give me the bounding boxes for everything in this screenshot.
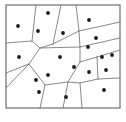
voronoi-seed-point: [16, 24, 20, 28]
voronoi-seed-point: [72, 65, 76, 69]
voronoi-seed-point: [46, 11, 50, 15]
voronoi-seed-point: [58, 55, 62, 59]
voronoi-seed-point: [94, 36, 98, 40]
voronoi-seed-point: [87, 70, 91, 74]
voronoi-seed-point: [87, 18, 91, 22]
voronoi-seed-point: [104, 68, 108, 72]
voronoi-seed-point: [102, 88, 106, 92]
voronoi-seed-point: [64, 95, 68, 99]
voronoi-seed-point: [34, 78, 38, 82]
voronoi-seed-point: [37, 90, 41, 94]
voronoi-seed-point: [110, 53, 114, 57]
figure-caption: [0, 112, 126, 122]
voronoi-figure: [0, 0, 126, 122]
voronoi-seed-point: [86, 45, 90, 49]
voronoi-seed-point: [100, 55, 104, 59]
voronoi-seed-point: [61, 31, 65, 35]
voronoi-seed-point: [17, 55, 21, 59]
figure-background: [0, 0, 126, 122]
voronoi-diagram-canvas: [0, 0, 126, 122]
voronoi-seed-point: [36, 29, 40, 33]
voronoi-seed-point: [46, 73, 50, 77]
